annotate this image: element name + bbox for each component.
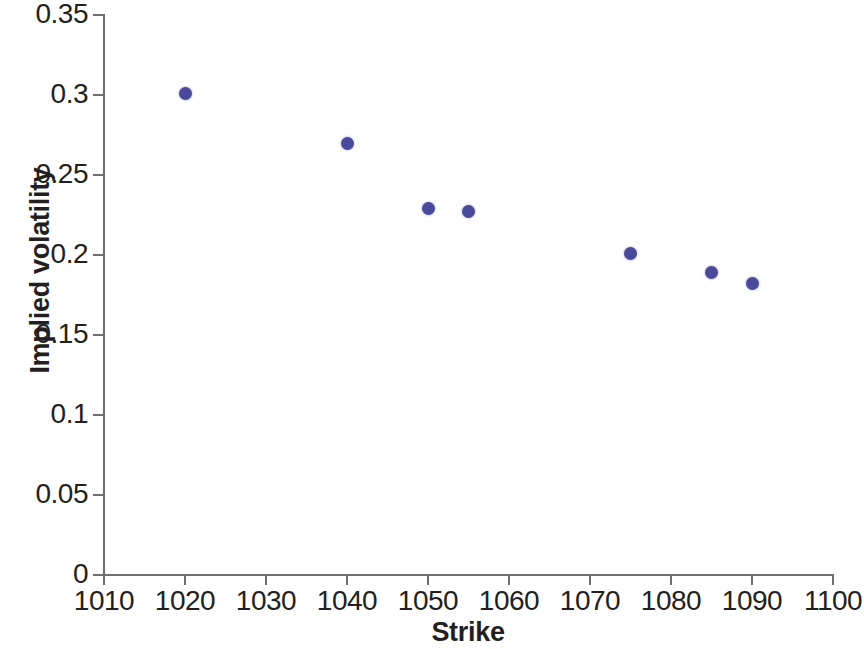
y-tick-mark — [93, 494, 104, 496]
data-point — [624, 247, 637, 260]
data-point — [746, 277, 759, 290]
x-tick-mark — [832, 574, 834, 585]
y-axis-title: Implied volatility — [25, 91, 56, 451]
x-tick-label: 1100 — [773, 586, 864, 616]
data-point — [422, 202, 435, 215]
x-tick-mark — [427, 574, 429, 585]
y-tick-mark — [93, 414, 104, 416]
y-tick-mark — [93, 14, 104, 16]
y-tick-label-wrap: 0 — [0, 560, 88, 588]
x-tick-mark — [103, 574, 105, 585]
data-point — [705, 266, 718, 279]
data-point — [462, 205, 475, 218]
x-tick-mark — [670, 574, 672, 585]
data-point — [341, 137, 354, 150]
x-tick-mark — [751, 574, 753, 585]
y-tick-label: 0 — [2, 560, 88, 588]
x-axis-title: Strike — [103, 617, 833, 648]
y-axis-line — [103, 14, 105, 576]
y-tick-mark — [93, 94, 104, 96]
y-tick-label: 0.05 — [2, 480, 88, 508]
x-tick-mark — [346, 574, 348, 585]
x-tick-mark — [589, 574, 591, 585]
scatter-chart-figure: 00.050.10.150.20.250.30.35 1010102010301… — [0, 0, 864, 649]
data-point — [179, 87, 192, 100]
x-axis-line — [103, 574, 833, 576]
x-tick-mark — [508, 574, 510, 585]
y-tick-label: 0.35 — [2, 0, 88, 28]
y-tick-mark — [93, 174, 104, 176]
x-tick-mark — [265, 574, 267, 585]
y-tick-label-wrap: 0.35 — [0, 0, 88, 28]
y-tick-mark — [93, 334, 104, 336]
plot-area — [0, 0, 864, 649]
y-tick-mark — [93, 254, 104, 256]
x-tick-mark — [184, 574, 186, 585]
y-tick-label-wrap: 0.05 — [0, 480, 88, 508]
